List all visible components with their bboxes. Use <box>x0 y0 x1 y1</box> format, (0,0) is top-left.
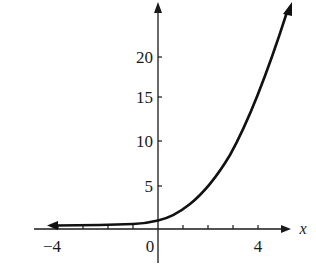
x-tick-label-neg4: −4 <box>43 237 62 256</box>
x-axis-arrow-icon <box>281 225 291 233</box>
function-graph: −4 0 4 x 5 10 15 20 <box>0 0 316 276</box>
y-tick-label-15: 15 <box>136 88 153 107</box>
x-tick-label-4: 4 <box>254 237 263 256</box>
x-axis-label: x <box>298 220 306 237</box>
y-tick-label-5: 5 <box>145 177 154 196</box>
y-tick-label-20: 20 <box>136 48 153 67</box>
curve-right-arrow-icon <box>283 2 292 16</box>
x-tick-label-0: 0 <box>146 237 155 256</box>
function-curve <box>56 12 287 226</box>
y-tick-label-10: 10 <box>136 132 153 151</box>
y-axis-arrow-icon <box>154 2 162 13</box>
